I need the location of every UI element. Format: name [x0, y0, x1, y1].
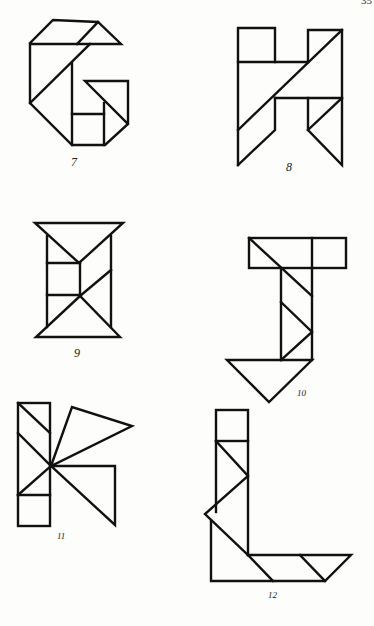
tangram-l-figure: [205, 410, 351, 581]
figure-11-caption: 11: [57, 531, 65, 541]
figure-12-caption: 12: [268, 590, 277, 600]
tangram-i-figure: [35, 223, 123, 337]
tangram-g-figure: [30, 20, 128, 145]
figure-7-caption: 7: [71, 155, 77, 170]
tangram-j-figure: [227, 238, 346, 402]
figure-8-caption: 8: [286, 160, 292, 175]
book-page: 35: [0, 0, 374, 626]
tangram-h-figure: [238, 28, 342, 165]
figure-9-caption: 9: [74, 346, 80, 361]
tangram-k-figure: [18, 403, 132, 526]
figure-10-caption: 10: [297, 388, 306, 398]
